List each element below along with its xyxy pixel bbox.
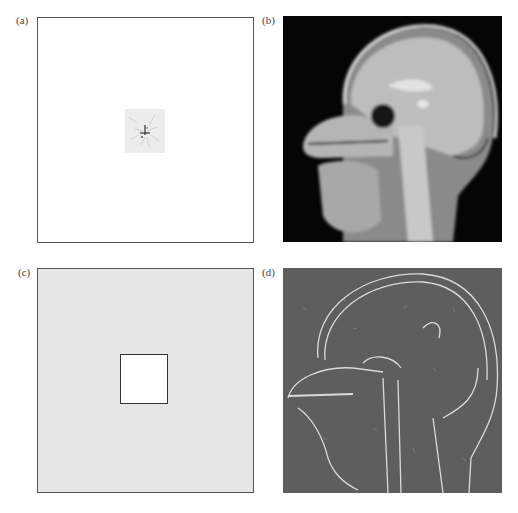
panel-c-image (37, 268, 254, 493)
panel-a-label: (a) (16, 14, 28, 26)
panel-d-label: (d) (262, 266, 275, 278)
panel-c-center-square (120, 354, 168, 404)
panel-b-image (283, 16, 502, 242)
panel-a-center-patch (125, 109, 165, 153)
panel-a-image (37, 17, 254, 243)
panel-c-label: (c) (18, 266, 30, 278)
panel-d-image (283, 268, 502, 493)
panel-b-label: (b) (262, 14, 275, 26)
